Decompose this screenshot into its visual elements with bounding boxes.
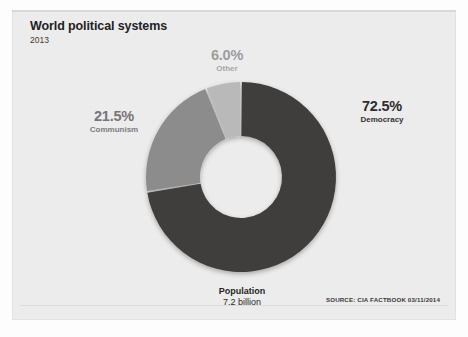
donut-chart-svg (134, 70, 348, 284)
slice-name-communism: Communism (58, 125, 170, 135)
donut-chart (134, 70, 348, 284)
population-total-label: Population (172, 286, 312, 297)
slice-value-democracy: 72.5% (324, 98, 440, 114)
slice-label-democracy: 72.5% Democracy (324, 98, 440, 125)
slice-value-other: 6.0% (175, 47, 279, 63)
slice-name-other: Other (175, 64, 279, 74)
donut-slices (146, 82, 336, 272)
infographic-card: World political systems 2013 (12, 10, 456, 320)
title-block: World political systems 2013 (30, 19, 330, 45)
slice-value-communism: 21.5% (58, 108, 170, 124)
source-credit: SOURCE: CIA FACTBOOK 03/11/2014 (326, 296, 440, 303)
slice-label-communism: 21.5% Communism (58, 108, 170, 135)
card-top-divider (12, 10, 456, 12)
chart-title: World political systems (30, 19, 330, 33)
slice-name-democracy: Democracy (324, 115, 440, 125)
infographic-screenshot: World political systems 2013 (0, 0, 468, 337)
chart-year: 2013 (30, 35, 330, 45)
footer-divider (20, 305, 448, 306)
population-total-value: 7.2 billion (172, 297, 312, 308)
slice-label-other: 6.0% Other (175, 47, 279, 74)
